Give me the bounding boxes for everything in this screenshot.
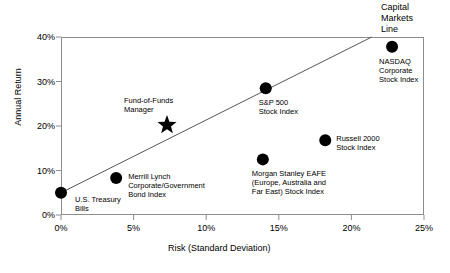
capital-markets-line-label: Capital Markets Line: [381, 2, 413, 35]
y-tick-label: 20%: [21, 121, 55, 131]
point-label: Morgan Stanley EAFE (Europe, Australia a…: [252, 169, 326, 196]
y-tick-label: 40%: [21, 32, 55, 42]
y-tick-label: 30%: [21, 77, 55, 87]
x-tick-label: 15%: [259, 223, 299, 233]
x-axis-title: Risk (Standard Deviation): [168, 243, 271, 253]
chart-container: 0%10%20%30%40%0%5%10%15%20%25%Capital Ma…: [0, 0, 450, 273]
point-label: Merrill Lynch Corporate/Government Bond …: [128, 172, 205, 199]
y-tick-label: 0%: [21, 210, 55, 220]
data-point-markers: [55, 41, 398, 199]
point-label: Fund-of-Funds Manager: [124, 96, 173, 114]
y-tick-label: 10%: [21, 166, 55, 176]
point-label: Russell 2000 Stock Index: [336, 134, 379, 152]
x-tick-label: 10%: [186, 223, 226, 233]
x-tick-label: 25%: [404, 223, 444, 233]
x-tick-label: 5%: [114, 223, 154, 233]
point-label: U.S. Treasury Bills: [75, 195, 121, 213]
point-label: S&P 500 Stock Index: [259, 98, 298, 116]
y-axis-title: Annual Return: [13, 57, 23, 137]
point-label: NASDAQ Corporate Stock Index: [379, 57, 418, 84]
axis-ticks: [56, 37, 424, 220]
x-tick-label: 20%: [331, 223, 371, 233]
x-tick-label: 0%: [41, 223, 81, 233]
